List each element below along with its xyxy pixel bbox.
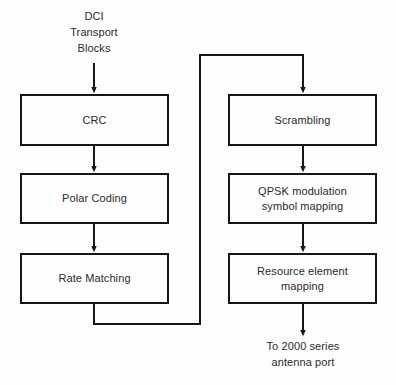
node-polar-coding[interactable]: Polar Coding xyxy=(20,173,169,224)
node-rate-matching[interactable]: Rate Matching xyxy=(20,253,169,304)
flowchart-canvas: DCI Transport Blocks To 2000 series ante… xyxy=(0,0,396,385)
node-resource-element-mapping-label: Resource element mapping xyxy=(253,264,352,294)
output-label: To 2000 series antenna port xyxy=(243,338,363,370)
node-resource-element-mapping[interactable]: Resource element mapping xyxy=(228,253,377,304)
node-qpsk-modulation-label: QPSK modulation symbol mapping xyxy=(254,184,351,214)
node-polar-coding-label: Polar Coding xyxy=(58,191,131,206)
node-rate-matching-label: Rate Matching xyxy=(54,271,134,286)
node-scrambling-label: Scrambling xyxy=(270,113,334,128)
node-scrambling[interactable]: Scrambling xyxy=(228,94,377,146)
node-qpsk-modulation[interactable]: QPSK modulation symbol mapping xyxy=(228,173,377,224)
input-label: DCI Transport Blocks xyxy=(34,8,154,56)
node-crc[interactable]: CRC xyxy=(20,94,169,146)
node-crc-label: CRC xyxy=(78,113,110,128)
